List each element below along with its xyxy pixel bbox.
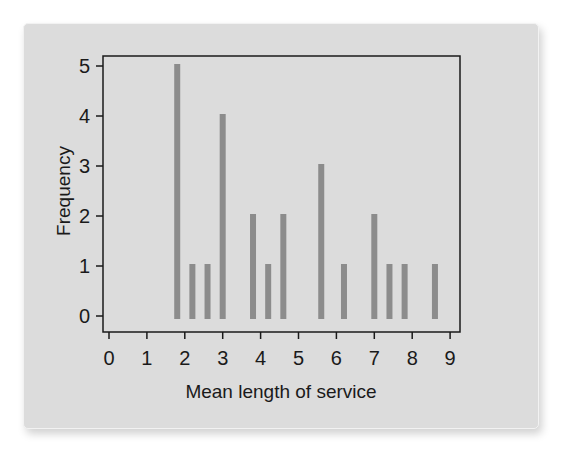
x-axis-title: Mean length of service: [185, 381, 376, 402]
x-tick-label: 3: [217, 347, 228, 369]
bar: [371, 214, 377, 319]
y-tick-label: 5: [79, 55, 90, 77]
x-tick-label: 2: [179, 347, 190, 369]
bar: [174, 64, 180, 319]
y-axis-title: Frequency: [53, 146, 74, 236]
bar: [402, 264, 408, 319]
bar: [432, 264, 438, 319]
y-tick-label: 4: [79, 105, 90, 127]
bar: [250, 214, 256, 319]
x-tick-label: 6: [331, 347, 342, 369]
bar: [386, 264, 392, 319]
x-tick-label: 0: [103, 347, 114, 369]
y-axis: 012345: [79, 55, 103, 327]
x-tick-label: 4: [255, 347, 266, 369]
y-tick-label: 1: [79, 255, 90, 277]
bar: [318, 164, 324, 319]
bar: [189, 264, 195, 319]
bar: [341, 264, 347, 319]
bar: [265, 264, 271, 319]
x-tick-label: 8: [407, 347, 418, 369]
x-tick-label: 7: [369, 347, 380, 369]
bar: [280, 214, 286, 319]
bar: [220, 114, 226, 319]
bars-group: [174, 64, 438, 319]
x-tick-label: 5: [293, 347, 304, 369]
bar: [205, 264, 211, 319]
y-tick-label: 2: [79, 205, 90, 227]
frequency-chart: 012345 0123456789 Mean length of service…: [0, 0, 574, 453]
y-tick-label: 3: [79, 155, 90, 177]
y-tick-label: 0: [79, 305, 90, 327]
x-tick-label: 9: [445, 347, 456, 369]
x-axis: 0123456789: [103, 332, 455, 369]
x-tick-label: 1: [141, 347, 152, 369]
